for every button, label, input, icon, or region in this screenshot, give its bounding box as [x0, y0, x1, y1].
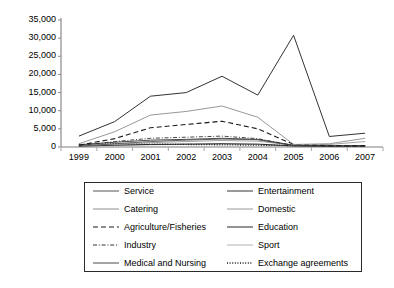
legend-item-service[interactable]: Service: [93, 182, 227, 200]
legend-label-industry: Industry: [124, 240, 156, 250]
legend-item-agriculture-fisheries[interactable]: Agriculture/Fisheries: [93, 218, 227, 236]
chart-page: 05,00010,00015,00020,00025,00030,00035,0…: [0, 0, 394, 288]
legend-item-education[interactable]: Education: [227, 218, 361, 236]
legend-swatch-exchange-agreements: [227, 259, 253, 267]
x-axis-tick-label: 2003: [202, 153, 242, 162]
legend-label-entertainment: Entertainment: [258, 186, 314, 196]
legend-swatch-medical-and-nursing: [93, 259, 119, 267]
legend-item-exchange-agreements[interactable]: Exchange agreements: [227, 254, 361, 272]
x-axis-tick-label: 2005: [274, 153, 314, 162]
legend-item-industry[interactable]: Industry: [93, 236, 227, 254]
legend-swatch-sport: [227, 241, 253, 249]
y-axis-tick-label: 25,000: [8, 51, 56, 60]
legend-label-service: Service: [124, 186, 154, 196]
legend-swatch-domestic: [227, 205, 253, 213]
legend-item-sport[interactable]: Sport: [227, 236, 361, 254]
y-axis-tick-label: 20,000: [8, 69, 56, 78]
y-axis-tick-label: 30,000: [8, 33, 56, 42]
legend-item-domestic[interactable]: Domestic: [227, 200, 361, 218]
line-chart: 05,00010,00015,00020,00025,00030,00035,0…: [0, 0, 394, 172]
legend-swatch-industry: [93, 241, 119, 249]
x-axis-tick-label: 2007: [345, 153, 385, 162]
legend-label-agriculture-fisheries: Agriculture/Fisheries: [124, 222, 206, 232]
x-axis-tick-label: 1999: [59, 153, 99, 162]
x-axis-tick-label: 2004: [238, 153, 278, 162]
x-axis-tick-label: 2002: [166, 153, 206, 162]
chart-legend: ServiceEntertainmentCateringDomesticAgri…: [84, 182, 362, 272]
x-axis-tick-label: 2006: [309, 153, 349, 162]
legend-label-sport: Sport: [258, 240, 280, 250]
legend-swatch-catering: [93, 205, 119, 213]
x-axis-tick-label: 2000: [95, 153, 135, 162]
y-axis-tick-label: 35,000: [8, 15, 56, 24]
legend-item-catering[interactable]: Catering: [93, 200, 227, 218]
y-axis-tick-label: 10,000: [8, 106, 56, 115]
legend-swatch-entertainment: [227, 187, 253, 195]
legend-label-exchange-agreements: Exchange agreements: [258, 258, 348, 268]
legend-swatch-education: [227, 223, 253, 231]
y-axis-tick-label: 5,000: [8, 124, 56, 133]
y-axis-tick-label: 15,000: [8, 88, 56, 97]
legend-label-domestic: Domestic: [258, 204, 296, 214]
legend-label-education: Education: [258, 222, 298, 232]
legend-label-medical-and-nursing: Medical and Nursing: [124, 258, 206, 268]
legend-swatch-agriculture-fisheries: [93, 223, 119, 231]
x-axis-tick-label: 2001: [130, 153, 170, 162]
y-axis-tick-label: 0: [8, 142, 56, 151]
chart-plot-svg: [0, 0, 394, 172]
legend-item-medical-and-nursing[interactable]: Medical and Nursing: [93, 254, 227, 272]
legend-swatch-service: [93, 187, 119, 195]
legend-label-catering: Catering: [124, 204, 158, 214]
legend-item-entertainment[interactable]: Entertainment: [227, 182, 361, 200]
